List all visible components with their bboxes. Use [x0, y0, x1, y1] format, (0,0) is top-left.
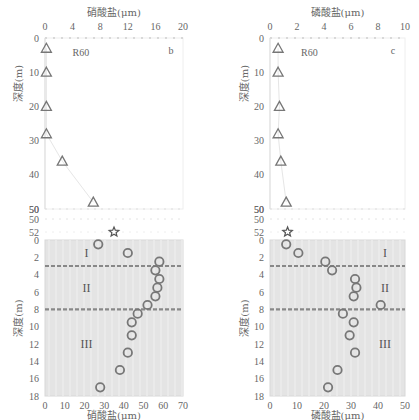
- bottom-tick-label: 50: [400, 400, 410, 411]
- top-tick-label: 4: [322, 21, 327, 32]
- top-tick-label: 8: [98, 21, 103, 32]
- bottom-tick-label: 10: [60, 400, 70, 411]
- lower-y-tick-label: 10: [29, 321, 39, 332]
- top-tick-label: 0: [268, 21, 273, 32]
- bottom-axis-title: 磷酸盐(μm): [311, 409, 365, 420]
- lower-y-tick-label: 4: [259, 269, 264, 280]
- bottom-tick-label: 70: [178, 400, 188, 411]
- upper-y-axis-title: 深度(m): [12, 65, 24, 102]
- star-marker: [283, 227, 293, 236]
- upper-y-axis-title: 深度(m): [238, 65, 250, 102]
- lower-y-axis-title: 深度(m): [238, 299, 250, 336]
- upper-y-tick-label: 10: [29, 67, 39, 78]
- lower-y-tick-label: 12: [254, 339, 264, 350]
- upper-y-tick-label: 40: [29, 169, 39, 180]
- bottom-tick-label: 40: [373, 400, 383, 411]
- zone-label: II: [82, 281, 90, 295]
- upper-y-tick-label: 0: [259, 33, 264, 44]
- upper-plot-frame: [45, 38, 183, 209]
- bottom-tick-label: 10: [292, 400, 302, 411]
- site-label: R60: [301, 47, 318, 58]
- top-axis-title: 磷酸盐(μm): [311, 6, 365, 18]
- zone-label: I: [383, 246, 387, 260]
- bottom-tick-label: 0: [268, 400, 273, 411]
- upper-y-tick-label: 0: [34, 33, 39, 44]
- profile-line: [278, 48, 286, 202]
- lower-y-axis-title: 深度(m): [12, 299, 24, 336]
- panel-label: c: [391, 45, 396, 56]
- lower-y-tick-label: 14: [254, 356, 264, 367]
- top-tick-label: 6: [349, 21, 354, 32]
- panel-label: b: [169, 45, 174, 56]
- chart-c: 磷酸盐(μm)024681001020304050R60c505052IIIII…: [238, 6, 410, 420]
- upper-y-tick-label: 20: [254, 101, 264, 112]
- zone-label: III: [80, 337, 92, 351]
- top-tick-label: 0: [43, 21, 48, 32]
- zone-label: III: [379, 337, 391, 351]
- top-tick-label: 8: [376, 21, 381, 32]
- zone-label: II: [381, 281, 389, 295]
- upper-y-tick-label: 20: [29, 101, 39, 112]
- lower-y-tick-label: 2: [34, 252, 39, 263]
- top-tick-label: 16: [150, 21, 160, 32]
- top-tick-label: 12: [123, 21, 133, 32]
- lower-y-tick-label: 18: [254, 391, 264, 402]
- lower-y-tick-label: 8: [34, 304, 39, 315]
- upper-plot-frame: [270, 38, 405, 209]
- profile-line: [46, 48, 93, 202]
- lower-y-tick-label: 0: [259, 235, 264, 246]
- lower-y-tick-label: 4: [34, 269, 39, 280]
- break-label: 50: [254, 214, 264, 225]
- bottom-axis-title: 硝酸盐(μm): [87, 409, 141, 420]
- lower-y-tick-label: 8: [259, 304, 264, 315]
- top-tick-label: 2: [295, 21, 300, 32]
- top-tick-label: 20: [178, 21, 188, 32]
- top-tick-label: 4: [70, 21, 75, 32]
- bottom-tick-label: 60: [158, 400, 168, 411]
- lower-y-tick-label: 6: [34, 287, 39, 298]
- lower-y-tick-label: 10: [254, 321, 264, 332]
- lower-y-tick-label: 6: [259, 287, 264, 298]
- lower-y-tick-label: 0: [34, 235, 39, 246]
- star-marker: [109, 227, 119, 236]
- upper-y-tick-label: 10: [254, 67, 264, 78]
- lower-y-tick-label: 16: [29, 373, 39, 384]
- chart-b: 硝酸盐(μm)04812162001020304050R60b505052III…: [12, 6, 188, 420]
- lower-y-tick-label: 2: [259, 252, 264, 263]
- lower-y-tick-label: 12: [29, 339, 39, 350]
- top-tick-label: 10: [400, 21, 410, 32]
- lower-y-tick-label: 14: [29, 356, 39, 367]
- top-axis-title: 硝酸盐(μm): [87, 6, 141, 18]
- site-label: R60: [73, 47, 90, 58]
- upper-y-tick-label: 40: [254, 169, 264, 180]
- bottom-tick-label: 0: [43, 400, 48, 411]
- break-label: 50: [29, 214, 39, 225]
- upper-y-tick-label: 30: [29, 135, 39, 146]
- zone-label: I: [84, 246, 88, 260]
- lower-y-tick-label: 18: [29, 391, 39, 402]
- upper-y-tick-label: 30: [254, 135, 264, 146]
- lower-y-tick-label: 16: [254, 373, 264, 384]
- depth-profile-figure: 硝酸盐(μm)04812162001020304050R60b505052III…: [0, 0, 419, 420]
